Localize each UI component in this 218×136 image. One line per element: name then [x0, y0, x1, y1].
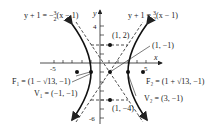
y-tick-4: 4 — [93, 23, 97, 31]
focus-f2 — [141, 70, 145, 74]
asymptote-label-negative: y + 1 = −32(x − 1) — [24, 10, 79, 22]
label-bottom-point: (1, −4) — [112, 104, 134, 113]
label-v1: V₁ = (−1, −1) — [34, 89, 78, 98]
label-top-point: (1, 2) — [112, 31, 130, 40]
label-center: (1, −1) — [152, 41, 174, 50]
point-bottom — [108, 98, 112, 102]
y-tick-neg6: -6 — [89, 115, 95, 123]
label-f1: F₁ = (1 − √13, −1) — [12, 77, 71, 86]
y-axis-label: y — [92, 9, 97, 18]
points — [75, 43, 145, 102]
label-v2: V₂ = (3, −1) — [144, 94, 183, 103]
hyperbola-diagram: -5 5 x 4 -6 y — [0, 0, 218, 136]
left-branch — [72, 24, 91, 120]
point-top — [108, 43, 112, 47]
x-axis-label: x — [153, 53, 158, 62]
x-tick-neg5: -5 — [50, 65, 56, 73]
label-f2: F₂ = (1 + √13, −1) — [146, 77, 205, 86]
focus-f1 — [75, 70, 79, 74]
vertex-v2 — [126, 70, 130, 74]
x-axis: -5 5 x — [40, 53, 162, 73]
leader-lines — [72, 46, 150, 96]
asymptote-label-positive: y + 1 = 32(x − 1) — [128, 10, 178, 22]
